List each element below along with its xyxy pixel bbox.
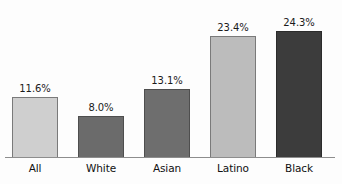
- bar-black: [276, 31, 322, 158]
- bar-group-all: 11.6%: [6, 0, 64, 158]
- category-label-latino: Latino: [204, 162, 262, 174]
- x-axis-line: [5, 157, 335, 158]
- bar-value-latino: 23.4%: [204, 22, 262, 33]
- bar-asian: [144, 89, 190, 158]
- plot-area: 11.6% 8.0% 13.1% 23.4% 24.3%: [0, 0, 342, 158]
- bar-value-black: 24.3%: [270, 17, 328, 28]
- bar-group-asian: 13.1%: [138, 0, 196, 158]
- bar-white: [78, 116, 124, 158]
- bar-group-white: 8.0%: [72, 0, 130, 158]
- bar-all: [12, 97, 58, 158]
- bar-chart-figure: 11.6% 8.0% 13.1% 23.4% 24.3% All White A…: [0, 0, 342, 184]
- category-label-black: Black: [270, 162, 328, 174]
- category-label-white: White: [72, 162, 130, 174]
- bar-group-black: 24.3%: [270, 0, 328, 158]
- category-label-all: All: [6, 162, 64, 174]
- bar-latino: [210, 36, 256, 158]
- bar-group-latino: 23.4%: [204, 0, 262, 158]
- bar-value-asian: 13.1%: [138, 75, 196, 86]
- bar-value-all: 11.6%: [6, 83, 64, 94]
- bar-value-white: 8.0%: [72, 102, 130, 113]
- category-label-asian: Asian: [138, 162, 196, 174]
- category-axis: All White Asian Latino Black: [0, 162, 342, 182]
